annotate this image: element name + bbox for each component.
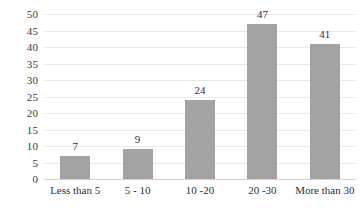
bar-group: 7 <box>44 14 106 179</box>
y-axis-tick-label: 10 <box>0 141 38 152</box>
bar[interactable] <box>185 100 215 179</box>
y-axis-tick-label: 25 <box>0 91 38 102</box>
x-axis-category-labels: Less than 55 - 1010 -2020 -30More than 3… <box>44 184 356 200</box>
bar-value-label: 9 <box>135 134 141 145</box>
y-axis-tick-label: 30 <box>0 75 38 86</box>
axis-baseline <box>44 179 356 180</box>
y-axis-tick-label: 45 <box>0 25 38 36</box>
bar-value-label: 24 <box>194 85 205 96</box>
x-axis-category-label: 20 -30 <box>248 184 276 197</box>
y-axis-tick-label: 35 <box>0 58 38 69</box>
bars-layer: 79244741 <box>44 14 356 179</box>
bar-group: 9 <box>106 14 168 179</box>
bar-value-label: 7 <box>72 141 78 152</box>
y-axis-tick-label: 50 <box>0 9 38 20</box>
bar-value-label: 47 <box>257 9 268 20</box>
bar[interactable] <box>247 24 277 179</box>
bar-group: 41 <box>294 14 356 179</box>
y-axis-tick-label: 20 <box>0 108 38 119</box>
x-axis-category-label: 10 -20 <box>186 184 214 197</box>
y-axis-tick-labels: 50454035302520151050 <box>0 14 38 179</box>
bar-chart: 50454035302520151050 79244741 Less than … <box>0 0 361 208</box>
y-axis-tick-label: 5 <box>0 157 38 168</box>
bar-group: 24 <box>169 14 231 179</box>
y-axis-tick-label: 0 <box>0 174 38 185</box>
y-axis-tick-label: 40 <box>0 42 38 53</box>
x-axis-category-label: Less than 5 <box>50 184 100 197</box>
bar-group: 47 <box>231 14 293 179</box>
y-axis-tick-label: 15 <box>0 124 38 135</box>
x-axis-category-label: 5 - 10 <box>125 184 151 197</box>
bar[interactable] <box>60 156 90 179</box>
bar-value-label: 41 <box>319 29 330 40</box>
bar[interactable] <box>123 149 153 179</box>
bar[interactable] <box>310 44 340 179</box>
x-axis-category-label: More than 30 <box>295 184 354 197</box>
